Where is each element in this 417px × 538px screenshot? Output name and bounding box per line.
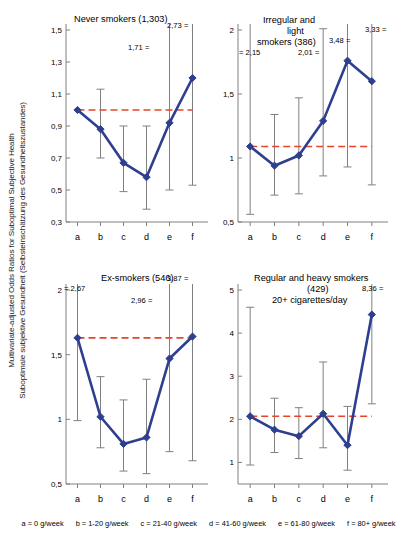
panel-1-title-line2: light xyxy=(287,26,304,37)
panel-0-plot: 0,30,50,70,91,11,31,5abcdef xyxy=(36,8,208,253)
y-axis-label: Multivariate-adjusted Odds Ratios for Su… xyxy=(0,0,34,500)
panel-2-annotation-e: 2,96 = xyxy=(131,296,152,305)
svg-text:0,9: 0,9 xyxy=(51,122,63,131)
svg-text:b: b xyxy=(272,232,277,242)
legend-item-e: e = 61-80 g/week xyxy=(278,519,335,528)
svg-text:1,5: 1,5 xyxy=(223,90,235,99)
legend-item-f: f = 80+ g/week xyxy=(347,519,395,528)
svg-text:a: a xyxy=(75,232,80,242)
svg-text:e: e xyxy=(167,232,172,242)
panel-0-annotation-e: 1,71 = xyxy=(128,43,149,52)
svg-text:f: f xyxy=(371,232,374,242)
chart-panel-never-smokers: Never smokers (1,303) 1,71 = 2,73 = 0,30… xyxy=(36,8,208,253)
panel-1-annotation-a: = 2,15 xyxy=(239,48,260,57)
panel-1-annotation-e: 3,48 = xyxy=(329,36,350,45)
svg-text:1,1: 1,1 xyxy=(51,90,63,99)
svg-text:c: c xyxy=(297,494,302,504)
panel-1-annotation-d: 2,01 = xyxy=(298,48,319,57)
svg-text:0,5: 0,5 xyxy=(51,186,63,195)
legend-item-a: a = 0 g/week xyxy=(21,519,63,528)
svg-text:e: e xyxy=(167,494,172,504)
svg-text:f: f xyxy=(371,494,374,504)
panel-3-title-line2: (429) xyxy=(307,284,328,295)
svg-text:5: 5 xyxy=(230,286,235,295)
svg-text:0,3: 0,3 xyxy=(51,218,63,227)
svg-text:a: a xyxy=(248,232,253,242)
svg-text:a: a xyxy=(248,494,253,504)
panel-2-annotation-a: = 2,67 xyxy=(64,284,85,293)
panel-3-annotation-f: 8,36 = xyxy=(362,284,383,293)
svg-text:d: d xyxy=(321,494,326,504)
svg-text:2: 2 xyxy=(230,415,235,424)
panel-1-title-line1: Irregular and xyxy=(263,15,315,26)
chart-panel-regular-heavy-smokers: Regular and heavy smokers (429) 20+ ciga… xyxy=(214,268,414,516)
panel-1-annotation-f: 3,33 = xyxy=(365,25,386,34)
svg-text:1: 1 xyxy=(230,154,235,163)
svg-text:1,5: 1,5 xyxy=(51,351,63,360)
svg-text:f: f xyxy=(191,232,194,242)
y-axis-label-line2: Suboptimale subjektive Gesundheit (Selbs… xyxy=(17,102,28,399)
panel-2-title: Ex-smokers (546) xyxy=(101,273,174,284)
panel-3-title-line1: Regular and heavy smokers xyxy=(254,273,368,284)
svg-text:1: 1 xyxy=(58,415,63,424)
svg-text:1,3: 1,3 xyxy=(51,58,63,67)
svg-text:b: b xyxy=(98,232,103,242)
svg-text:f: f xyxy=(191,494,194,504)
svg-text:d: d xyxy=(144,494,149,504)
svg-text:0,5: 0,5 xyxy=(223,218,235,227)
svg-text:b: b xyxy=(98,494,103,504)
svg-text:1: 1 xyxy=(230,458,235,467)
svg-text:3: 3 xyxy=(230,372,235,381)
svg-text:2: 2 xyxy=(230,26,235,35)
svg-text:c: c xyxy=(297,232,302,242)
panel-0-title: Never smokers (1,303) xyxy=(74,14,167,25)
figure-panel-grid: Multivariate-adjusted Odds Ratios for Su… xyxy=(0,0,417,538)
panel-2-annotation-f: 3,87 = xyxy=(167,274,188,283)
svg-text:d: d xyxy=(321,232,326,242)
legend-item-b: b = 1-20 g/week xyxy=(76,519,129,528)
svg-text:c: c xyxy=(121,494,126,504)
svg-text:e: e xyxy=(345,232,350,242)
chart-panel-irregular-light-smokers: Irregular and light smokers (386) = 2,15… xyxy=(214,8,414,253)
svg-text:a: a xyxy=(75,494,80,504)
svg-text:0,5: 0,5 xyxy=(51,480,63,489)
svg-text:4: 4 xyxy=(230,329,235,338)
chart-panel-ex-smokers: Ex-smokers (546) = 2,67 2,96 = 3,87 = 0,… xyxy=(36,268,208,516)
y-axis-label-line1: Multivariate-adjusted Odds Ratios for Su… xyxy=(7,102,18,399)
svg-text:1,5: 1,5 xyxy=(51,26,63,35)
panel-3-title-line3: 20+ cigarettes/day xyxy=(272,295,347,306)
svg-text:e: e xyxy=(345,494,350,504)
legend-item-d: d = 41-60 g/week xyxy=(209,519,266,528)
panel-1-title-line3: smokers (386) xyxy=(257,37,316,48)
legend-item-c: c = 21-40 g/week xyxy=(141,519,198,528)
svg-text:b: b xyxy=(272,494,277,504)
svg-text:d: d xyxy=(144,232,149,242)
svg-text:2: 2 xyxy=(58,286,63,295)
svg-text:0,7: 0,7 xyxy=(51,154,63,163)
chart-legend: a = 0 g/week b = 1-20 g/week c = 21-40 g… xyxy=(0,519,417,528)
svg-text:c: c xyxy=(121,232,126,242)
panel-0-annotation-f: 2,73 = xyxy=(167,21,188,30)
panel-2-plot: 0,511,52abcdef xyxy=(36,268,208,516)
